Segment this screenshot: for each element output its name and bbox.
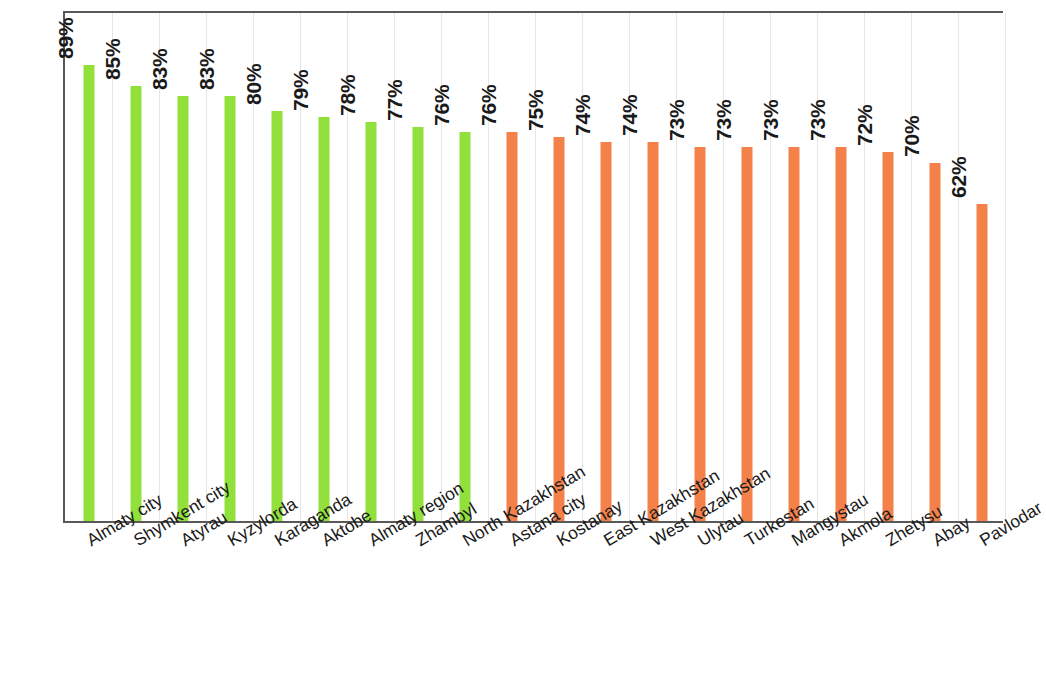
bar-slot: 89% bbox=[65, 13, 112, 521]
bar[interactable] bbox=[694, 147, 705, 521]
bar[interactable] bbox=[553, 137, 564, 521]
category-label-slot: Mangystau bbox=[768, 527, 815, 679]
bar-slot: 74% bbox=[629, 13, 676, 521]
bar[interactable] bbox=[788, 147, 799, 521]
bar[interactable] bbox=[600, 142, 611, 521]
bar-value-label: 83% bbox=[148, 49, 172, 90]
bar[interactable] bbox=[741, 147, 752, 521]
bar-value-label: 79% bbox=[289, 69, 313, 110]
category-label-slot: Turkestan bbox=[721, 527, 768, 679]
bar[interactable] bbox=[224, 96, 235, 521]
category-label-slot: Kostanay bbox=[533, 527, 580, 679]
bar-slot: 70% bbox=[911, 13, 958, 521]
bar[interactable] bbox=[177, 96, 188, 521]
bar[interactable] bbox=[882, 152, 893, 521]
bar-value-label: 72% bbox=[853, 105, 877, 146]
x-axis-category-labels: Almaty cityShymkent cityAtyrauKyzylordaK… bbox=[63, 527, 1003, 679]
bar[interactable] bbox=[412, 127, 423, 521]
category-label-slot: Akmola bbox=[815, 527, 862, 679]
category-label-slot: Ulytau bbox=[674, 527, 721, 679]
category-label-slot: Abay bbox=[909, 527, 956, 679]
plot-area: 89%85%83%83%80%79%78%77%76%76%75%74%74%7… bbox=[63, 11, 1003, 523]
bar[interactable] bbox=[929, 163, 940, 521]
bar-value-label: 62% bbox=[947, 156, 971, 197]
bar[interactable] bbox=[130, 86, 141, 521]
bar-value-label: 80% bbox=[242, 64, 266, 105]
category-label-slot: Pavlodar bbox=[956, 527, 1003, 679]
category-label-slot: Almaty city bbox=[63, 527, 110, 679]
bar-value-label: 76% bbox=[430, 84, 454, 125]
bar-value-label: 74% bbox=[618, 95, 642, 136]
gridline bbox=[1005, 13, 1006, 521]
category-label-slot: Almaty region bbox=[345, 527, 392, 679]
bar-slot: 73% bbox=[723, 13, 770, 521]
bar-value-label: 73% bbox=[665, 100, 689, 141]
bar-value-label: 70% bbox=[900, 115, 924, 156]
category-label-slot: Atyrau bbox=[157, 527, 204, 679]
category-label-slot: Kyzylorda bbox=[204, 527, 251, 679]
bar-value-label: 89% bbox=[54, 18, 78, 59]
category-label-slot: Zhetysu bbox=[862, 527, 909, 679]
bar[interactable] bbox=[365, 122, 376, 521]
bar[interactable] bbox=[83, 65, 94, 521]
bar-value-label: 75% bbox=[524, 90, 548, 131]
bar-slot: 74% bbox=[582, 13, 629, 521]
bar[interactable] bbox=[459, 132, 470, 521]
bar-value-label: 74% bbox=[571, 95, 595, 136]
category-label-slot: Karaganda bbox=[251, 527, 298, 679]
category-label-slot: Astana city bbox=[486, 527, 533, 679]
bar-value-label: 76% bbox=[477, 84, 501, 125]
bar-value-label: 78% bbox=[336, 74, 360, 115]
category-label-slot: East Kazakhstan bbox=[580, 527, 627, 679]
bar-slot: 72% bbox=[864, 13, 911, 521]
bar[interactable] bbox=[506, 132, 517, 521]
category-label-slot: Shymkent city bbox=[110, 527, 157, 679]
bar[interactable] bbox=[271, 111, 282, 521]
bar-slot: 73% bbox=[770, 13, 817, 521]
bar-value-label: 73% bbox=[806, 100, 830, 141]
bar-slot: 73% bbox=[676, 13, 723, 521]
category-label-slot: North Kazakhstan bbox=[439, 527, 486, 679]
bar-slot: 62% bbox=[958, 13, 1005, 521]
bar-slot: 73% bbox=[817, 13, 864, 521]
bar[interactable] bbox=[976, 204, 987, 521]
bar-value-label: 85% bbox=[101, 38, 125, 79]
bar-value-label: 83% bbox=[195, 49, 219, 90]
category-label-slot: Aktobe bbox=[298, 527, 345, 679]
bar[interactable] bbox=[318, 117, 329, 521]
bar-slot: 75% bbox=[535, 13, 582, 521]
bar[interactable] bbox=[835, 147, 846, 521]
bar-value-label: 77% bbox=[383, 79, 407, 120]
category-label-slot: Zhambyl bbox=[392, 527, 439, 679]
bar[interactable] bbox=[647, 142, 658, 521]
bar-value-label: 73% bbox=[712, 100, 736, 141]
category-label-slot: West Kazakhstan bbox=[627, 527, 674, 679]
bar-value-label: 73% bbox=[759, 100, 783, 141]
